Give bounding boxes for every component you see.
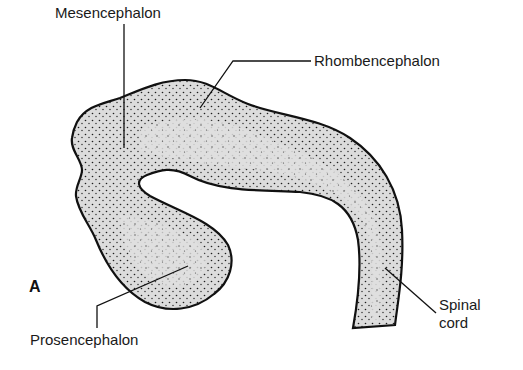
label-mesencephalon: Mesencephalon xyxy=(55,4,161,21)
label-spinal-cord-line1: Spinal xyxy=(439,296,481,313)
label-rhombencephalon: Rhombencephalon xyxy=(314,52,440,69)
label-prosencephalon: Prosencephalon xyxy=(30,331,138,348)
panel-letter: A xyxy=(29,278,41,296)
label-spinal-cord-line2: cord xyxy=(439,314,468,331)
